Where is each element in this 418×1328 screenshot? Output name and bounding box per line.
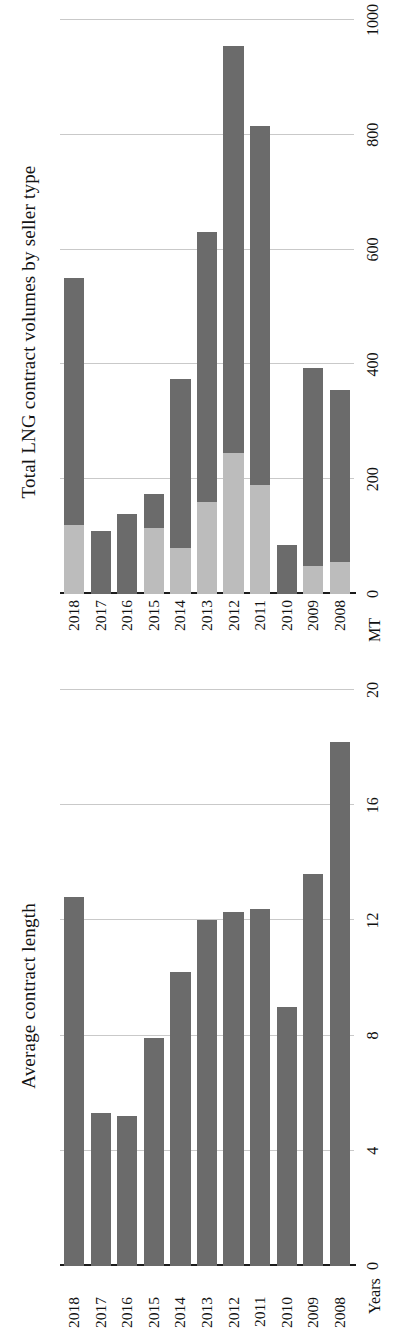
tick-label: 4: [364, 1147, 382, 1155]
category-label: 2011: [251, 1296, 269, 1326]
right-plot-area: 2018201720162015201420132012201120102009…: [60, 20, 354, 594]
bar-row: [91, 20, 111, 594]
left-tick-labels: 048121620: [358, 690, 388, 1266]
tick-label: 12: [364, 912, 382, 928]
bar-segment: [117, 1116, 137, 1266]
bar-row: [223, 690, 243, 1266]
bar-row: [117, 20, 137, 594]
bar-row: [170, 20, 190, 594]
left-panel-title: Average contract length: [18, 664, 40, 1328]
right-panel-title: Total LNG contract volumes by seller typ…: [18, 0, 40, 664]
category-label: 2018: [65, 1297, 83, 1328]
category-label: 2017: [92, 600, 110, 631]
bar-row: [250, 20, 270, 594]
left-axis-unit-label: Years: [366, 1278, 384, 1314]
bar-row: [64, 20, 84, 594]
left-plot-area: 2018201720162015201420132012201120102009…: [60, 690, 354, 1266]
category-label: 2016: [118, 600, 136, 631]
bar-segment: [223, 912, 243, 1266]
bar-row: [330, 20, 350, 594]
category-label: 2015: [145, 1297, 163, 1328]
bar-row: [144, 690, 164, 1266]
bar-segment: [277, 1007, 297, 1266]
bar-segment: [144, 494, 164, 528]
category-label: 2013: [198, 1297, 216, 1328]
category-label: 2012: [225, 600, 243, 631]
panel-total-lng-contract-volumes: Total LNG contract volumes by seller typ…: [0, 0, 418, 664]
bar-segment: [64, 525, 84, 594]
bar-row: [197, 20, 217, 594]
tick-label: 0: [364, 1262, 382, 1270]
bar-segment: [250, 126, 270, 485]
bar-segment: [277, 545, 297, 594]
tick-label: 16: [364, 797, 382, 813]
bar-segment: [170, 379, 190, 548]
right-axis-unit-label: MT: [366, 618, 384, 642]
bar-segment: [170, 972, 190, 1266]
bar-segment: [223, 46, 243, 454]
bar-segment: [303, 368, 323, 566]
bar-row: [277, 690, 297, 1266]
bar-segment: [303, 874, 323, 1266]
bar-segment: [144, 1038, 164, 1266]
right-bars: [60, 20, 354, 594]
tick-label: 1000: [364, 4, 382, 36]
bar-row: [170, 690, 190, 1266]
bar-segment: [170, 548, 190, 594]
category-label: 2011: [251, 600, 269, 630]
bar-row: [277, 20, 297, 594]
category-label: 2016: [118, 1297, 136, 1328]
bar-segment: [197, 502, 217, 594]
category-label: 2010: [278, 600, 296, 631]
bar-row: [330, 690, 350, 1266]
bar-segment: [303, 566, 323, 594]
bar-segment: [197, 232, 217, 502]
bar-segment: [91, 1113, 111, 1266]
category-label: 2013: [198, 600, 216, 631]
bar-row: [303, 690, 323, 1266]
tick-label: 600: [364, 238, 382, 262]
panel-average-contract-length: Average contract length Years 2018201720…: [0, 664, 418, 1328]
tick-label: 20: [364, 682, 382, 698]
category-label: 2012: [225, 1297, 243, 1328]
bar-segment: [197, 920, 217, 1266]
right-tick-labels: 02004006008001000: [358, 20, 388, 594]
left-bars: [60, 690, 354, 1266]
tick-label: 200: [364, 467, 382, 491]
bar-row: [64, 690, 84, 1266]
bar-segment: [330, 562, 350, 594]
figure: Average contract length Years 2018201720…: [0, 0, 418, 1328]
bar-row: [91, 690, 111, 1266]
bar-segment: [223, 453, 243, 594]
bar-row: [303, 20, 323, 594]
category-label: 2017: [92, 1297, 110, 1328]
bar-row: [250, 690, 270, 1266]
bar-segment: [250, 485, 270, 594]
bar-row: [223, 20, 243, 594]
bar-segment: [91, 531, 111, 594]
bar-segment: [330, 742, 350, 1266]
bar-segment: [64, 897, 84, 1266]
category-label: 2010: [278, 1297, 296, 1328]
tick-label: 8: [364, 1032, 382, 1040]
bar-segment: [64, 278, 84, 525]
bar-segment: [250, 909, 270, 1266]
bar-row: [197, 690, 217, 1266]
rotated-page-stage: Average contract length Years 2018201720…: [0, 0, 418, 1328]
category-label: 2009: [304, 600, 322, 631]
tick-label: 0: [364, 590, 382, 598]
bar-segment: [117, 514, 137, 594]
bar-row: [117, 690, 137, 1266]
bar-segment: [330, 390, 350, 562]
category-label: 2014: [171, 600, 189, 631]
category-label: 2015: [145, 600, 163, 631]
bar-segment: [144, 528, 164, 594]
bar-row: [144, 20, 164, 594]
category-label: 2014: [171, 1297, 189, 1328]
tick-label: 400: [364, 352, 382, 376]
category-label: 2008: [331, 600, 349, 631]
tick-label: 800: [364, 123, 382, 147]
category-label: 2008: [331, 1297, 349, 1328]
category-label: 2009: [304, 1297, 322, 1328]
category-label: 2018: [65, 600, 83, 631]
